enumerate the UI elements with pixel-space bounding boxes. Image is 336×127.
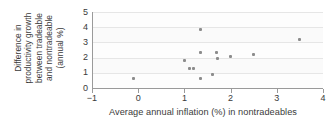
data-point bbox=[229, 55, 232, 58]
x-tick-label: 2 bbox=[219, 94, 243, 103]
x-axis-label: Average annual inflation (%) in nontrade… bbox=[78, 107, 328, 117]
x-tick-label: −1 bbox=[80, 94, 104, 103]
data-point bbox=[216, 57, 219, 60]
y-tick-label: 0 bbox=[74, 84, 88, 93]
data-point bbox=[192, 67, 195, 70]
plot-band bbox=[92, 27, 323, 42]
data-point bbox=[188, 67, 191, 70]
x-tick-label: 1 bbox=[172, 94, 196, 103]
y-tick-label: 2 bbox=[74, 53, 88, 62]
y-axis-label-line-5: (annual %) bbox=[55, 12, 65, 83]
y-tick-label: 3 bbox=[74, 38, 88, 47]
y-axis-label-line-2: productivity growth bbox=[23, 12, 33, 83]
y-axis-label-line-3: between tradeable bbox=[34, 12, 44, 83]
data-point bbox=[199, 51, 202, 54]
y-axis-label-line-1: Difference in bbox=[13, 12, 23, 83]
plot-band bbox=[92, 58, 323, 73]
data-point bbox=[132, 77, 135, 80]
data-point bbox=[215, 51, 218, 54]
x-tick-label: 0 bbox=[126, 94, 150, 103]
gridline bbox=[92, 42, 323, 43]
y-tick-label: 4 bbox=[74, 23, 88, 32]
x-tick-label: 3 bbox=[265, 94, 289, 103]
data-point bbox=[199, 28, 202, 31]
data-point bbox=[211, 73, 214, 76]
plot-area bbox=[92, 12, 323, 88]
gridline bbox=[92, 12, 323, 13]
gridline bbox=[92, 27, 323, 28]
y-axis-label-line-4: and nontradeable bbox=[44, 12, 54, 83]
y-tick-label: 1 bbox=[74, 68, 88, 77]
scatter-chart-figure: Difference in productivity growth betwee… bbox=[0, 0, 336, 127]
y-tick-label: 5 bbox=[74, 8, 88, 17]
x-axis-line bbox=[92, 88, 323, 89]
y-axis-line bbox=[92, 12, 93, 89]
gridline bbox=[92, 58, 323, 59]
gridline bbox=[92, 73, 323, 74]
y-axis-label-text: Difference in productivity growth betwee… bbox=[13, 12, 65, 83]
data-point bbox=[183, 59, 186, 62]
data-point bbox=[199, 77, 202, 80]
y-axis-label: Difference in productivity growth betwee… bbox=[0, 0, 78, 95]
data-point bbox=[252, 53, 255, 56]
x-tick-label: 4 bbox=[311, 94, 335, 103]
